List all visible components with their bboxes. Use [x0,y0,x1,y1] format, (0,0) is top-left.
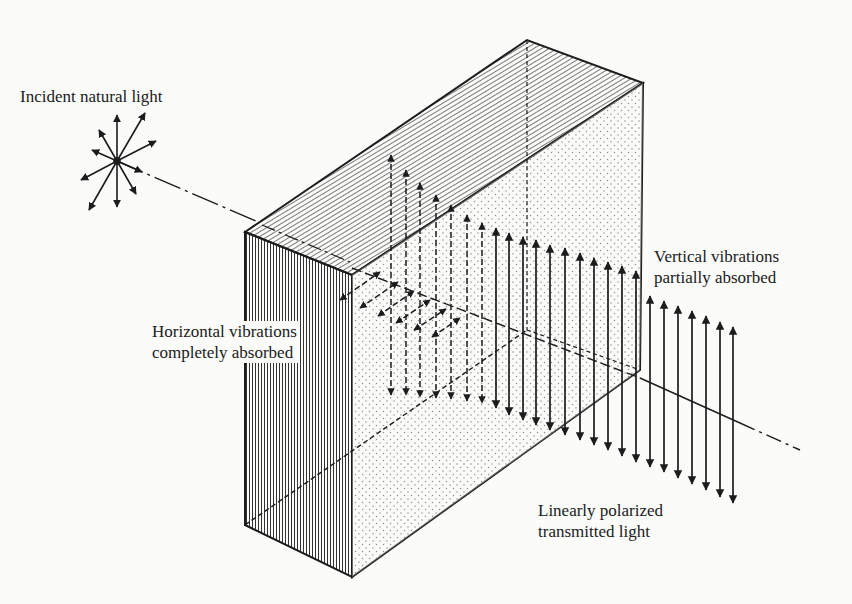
vertical-vibrations-label: Vertical vibrations partially absorbed [654,246,779,288]
transmitted-label-line2: transmitted light [538,521,663,542]
vertical-label-line1: Vertical vibrations [654,246,779,267]
transmitted-light-label: Linearly polarized transmitted light [538,500,663,542]
incident-light-label: Incident natural light [20,86,163,107]
natural-light-star-icon [81,113,156,210]
horizontal-label-line1: Horizontal vibrations [152,321,297,342]
horizontal-vibrations-label: Horizontal vibrations completely absorbe… [150,321,299,363]
transmitted-label-line1: Linearly polarized [538,500,663,521]
vertical-label-line2: partially absorbed [654,267,779,288]
horizontal-label-line2: completely absorbed [152,342,297,363]
polarizer-block [245,40,643,577]
block-front-face [245,232,352,577]
